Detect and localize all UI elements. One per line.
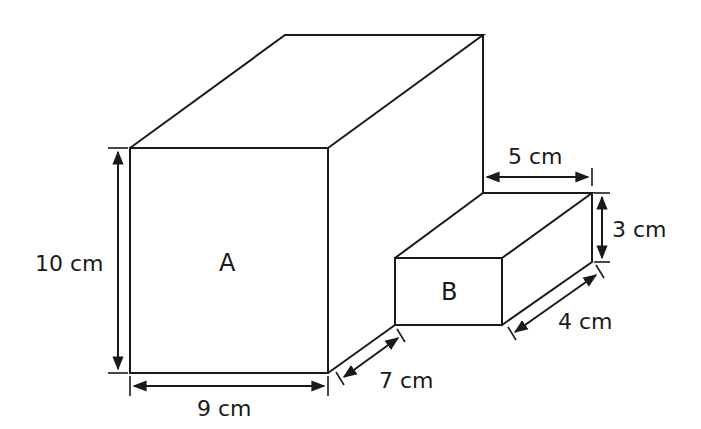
box-b-label: B bbox=[441, 280, 457, 304]
box-b bbox=[395, 193, 592, 325]
a-height-label: 10 cm bbox=[35, 253, 104, 275]
diagram-canvas: A B 10 cm 9 cm 7 cm 5 cm 3 cm 4 cm bbox=[0, 0, 701, 429]
box-a-bottom-depth-edge bbox=[328, 325, 395, 373]
dim-a-width bbox=[130, 376, 328, 396]
box-a-top-face bbox=[130, 35, 483, 148]
a-depth-label: 7 cm bbox=[379, 370, 434, 392]
a-width-label: 9 cm bbox=[197, 398, 252, 420]
box-b-top-face bbox=[395, 193, 592, 258]
dim-a-height bbox=[108, 148, 128, 373]
dim-b-height bbox=[594, 193, 610, 262]
cuboid-diagram bbox=[0, 0, 701, 429]
box-a-label: A bbox=[219, 251, 235, 275]
box-b-right-face bbox=[502, 193, 592, 325]
b-width-label: 5 cm bbox=[508, 146, 563, 168]
box-a bbox=[130, 35, 483, 373]
b-depth-label: 4 cm bbox=[558, 311, 613, 333]
dim-b-width bbox=[487, 168, 592, 186]
b-height-label: 3 cm bbox=[612, 219, 667, 241]
